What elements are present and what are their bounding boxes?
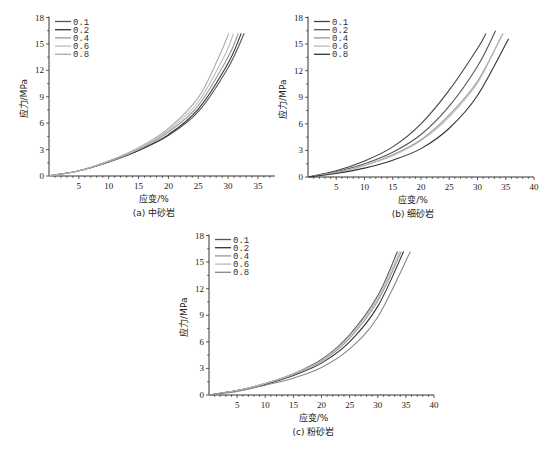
y-tick-label: 9 xyxy=(40,92,45,102)
x-tick-label: 40 xyxy=(430,400,440,410)
y-tick-label: 6 xyxy=(299,119,304,129)
x-tick-label: 20 xyxy=(317,400,327,410)
x-tick-label: 20 xyxy=(417,182,427,192)
figure-caption: (b) 细砂岩 xyxy=(392,208,435,219)
y-tick-label: 12 xyxy=(195,284,204,294)
chart-medium-sandstone: 51015202530350369121518应变/%应力/MPa(a) 中砂岩… xyxy=(18,13,275,219)
x-tick-label: 15 xyxy=(388,182,398,192)
x-tick-label: 30 xyxy=(373,400,383,410)
legend-label: 0.8 xyxy=(332,50,348,60)
y-tick-label: 3 xyxy=(299,145,304,155)
legend-label: 0.8 xyxy=(73,50,89,60)
x-tick-label: 25 xyxy=(194,181,204,191)
x-tick-label: 10 xyxy=(261,400,271,410)
y-tick-label: 0 xyxy=(40,171,45,181)
x-tick-label: 5 xyxy=(77,181,82,191)
y-tick-label: 18 xyxy=(195,231,205,241)
y-tick-label: 15 xyxy=(294,39,304,49)
y-tick-label: 12 xyxy=(35,65,44,75)
x-tick-label: 10 xyxy=(360,182,370,192)
y-tick-label: 0 xyxy=(299,172,304,182)
chart-siltstone: 5101520253035400369121518应变/%应力/MPa(c) 粉… xyxy=(178,231,439,438)
x-tick-label: 25 xyxy=(445,182,455,192)
y-tick-label: 6 xyxy=(200,337,205,347)
y-tick-label: 18 xyxy=(294,13,304,23)
x-tick-label: 5 xyxy=(235,400,240,410)
figure-caption: (c) 粉砂岩 xyxy=(293,426,335,437)
y-axis-title: 应力/MPa xyxy=(277,80,288,119)
x-tick-label: 15 xyxy=(289,400,299,410)
legend-label: 0.8 xyxy=(233,268,249,278)
y-tick-label: 15 xyxy=(195,257,205,267)
chart-fine-sandstone: 5101520253035400369121518应变/%应力/MPa(b) 细… xyxy=(277,13,539,220)
x-tick-label: 25 xyxy=(345,400,355,410)
y-tick-label: 15 xyxy=(35,39,45,49)
y-axis-title: 应力/MPa xyxy=(178,298,189,337)
figure-caption: (a) 中砂岩 xyxy=(133,207,175,218)
figure: 51015202530350369121518应变/%应力/MPa(a) 中砂岩… xyxy=(0,0,551,454)
y-tick-label: 3 xyxy=(40,145,45,155)
y-tick-label: 9 xyxy=(299,92,304,102)
x-axis-title: 应变/% xyxy=(139,193,169,204)
x-tick-label: 15 xyxy=(134,181,144,191)
x-tick-label: 35 xyxy=(501,182,511,192)
x-tick-label: 35 xyxy=(253,181,263,191)
x-tick-label: 35 xyxy=(401,400,411,410)
x-axis-title: 应变/% xyxy=(398,194,428,205)
y-tick-label: 0 xyxy=(200,390,205,400)
x-tick-label: 20 xyxy=(164,181,174,191)
x-tick-label: 10 xyxy=(104,181,114,191)
y-axis-title: 应力/MPa xyxy=(18,79,29,118)
y-tick-label: 12 xyxy=(294,66,303,76)
x-tick-label: 40 xyxy=(530,182,540,192)
y-tick-label: 3 xyxy=(200,363,205,373)
x-tick-label: 30 xyxy=(473,182,483,192)
y-tick-label: 18 xyxy=(35,13,45,23)
y-tick-label: 6 xyxy=(40,118,45,128)
x-axis-title: 应变/% xyxy=(299,412,329,423)
y-tick-label: 9 xyxy=(200,310,205,320)
x-tick-label: 5 xyxy=(334,182,339,192)
x-tick-label: 30 xyxy=(224,181,234,191)
